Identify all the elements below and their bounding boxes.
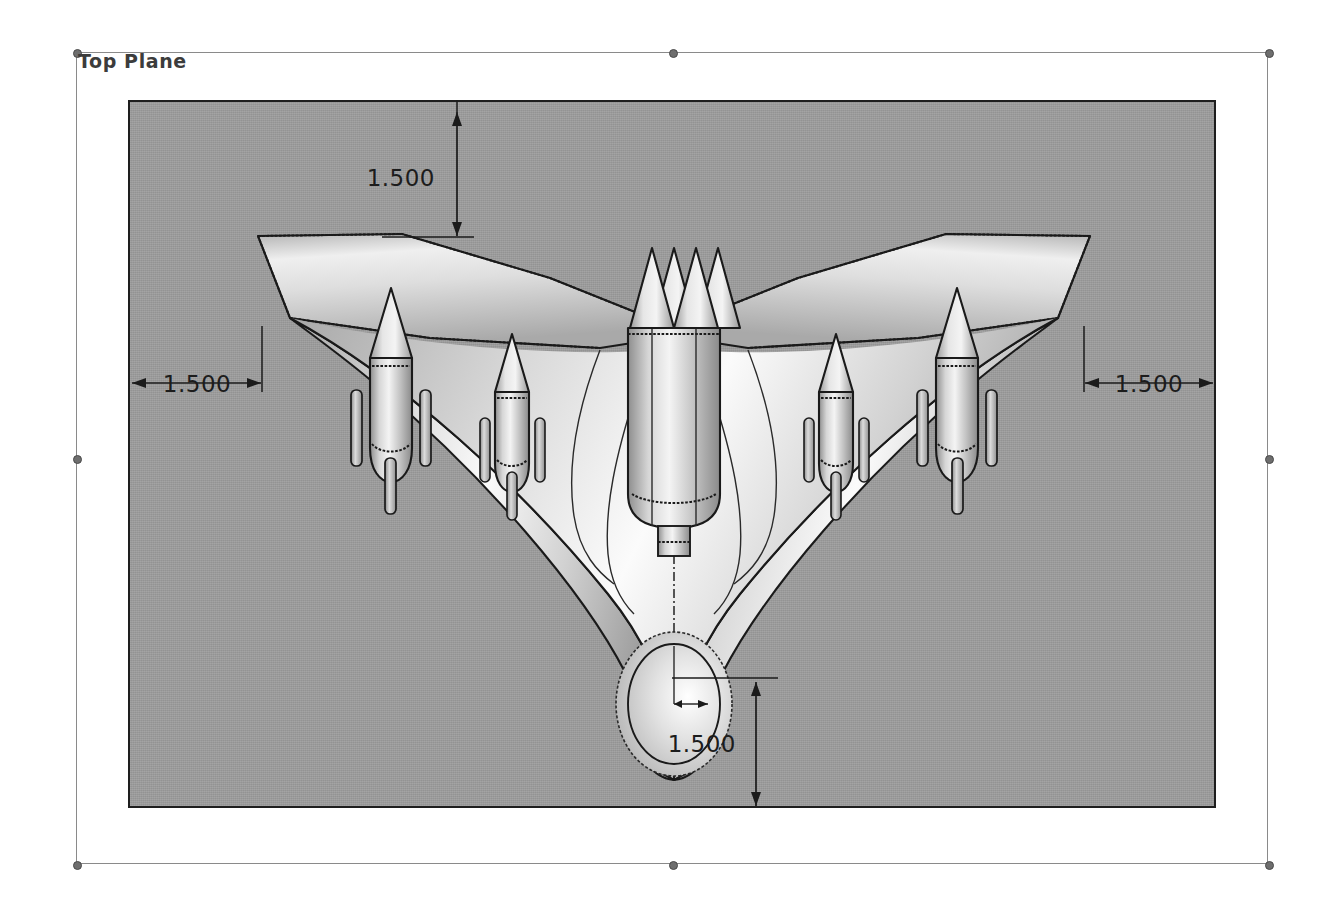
sketch-plane-selection-frame[interactable] <box>76 52 1268 864</box>
handle-middle-left[interactable] <box>73 455 82 464</box>
cad-viewport[interactable]: .edge { fill:none; stroke:#1a1a1a; strok… <box>0 0 1332 919</box>
handle-middle-right[interactable] <box>1265 455 1274 464</box>
handle-bottom-right[interactable] <box>1265 861 1274 870</box>
handle-bottom-center[interactable] <box>669 861 678 870</box>
handle-top-center[interactable] <box>669 49 678 58</box>
plane-label: Top Plane <box>78 50 187 72</box>
handle-bottom-left[interactable] <box>73 861 82 870</box>
handle-top-right[interactable] <box>1265 49 1274 58</box>
